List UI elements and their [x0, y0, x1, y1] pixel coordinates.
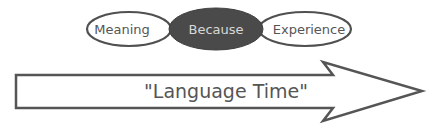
- ellipse-label-experience: Experience: [273, 22, 346, 37]
- language-time-arrow: "Language Time": [16, 62, 422, 121]
- ellipse-because: Because: [169, 8, 263, 50]
- diagram-canvas: Meaning Experience Because "Language Tim…: [0, 0, 438, 128]
- ellipse-label-because: Because: [188, 22, 243, 37]
- ellipse-label-meaning: Meaning: [94, 22, 150, 37]
- ellipse-meaning: Meaning: [87, 12, 171, 46]
- ellipse-experience: Experience: [259, 12, 351, 46]
- arrow-label: "Language Time": [144, 80, 308, 102]
